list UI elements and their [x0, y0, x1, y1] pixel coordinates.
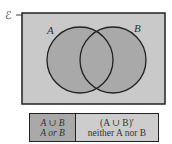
- legend-union-cell: A ∪ B A or B: [30, 114, 76, 141]
- venn-diagram: ℰ A B: [0, 0, 172, 112]
- legend-complement-cell: (A ∪ B)′ neither A nor B: [76, 114, 158, 141]
- union-words: A or B: [40, 128, 65, 138]
- set-b-label: B: [134, 22, 141, 34]
- complement-words: neither A nor B: [88, 128, 146, 138]
- complement-symbol: (A ∪ B)′: [100, 118, 134, 128]
- universal-set-label: ℰ: [5, 9, 12, 21]
- union-symbol: A ∪ B: [40, 118, 64, 128]
- set-a-label: A: [46, 24, 54, 36]
- legend-table: A ∪ B A or B (A ∪ B)′ neither A nor B: [29, 113, 159, 142]
